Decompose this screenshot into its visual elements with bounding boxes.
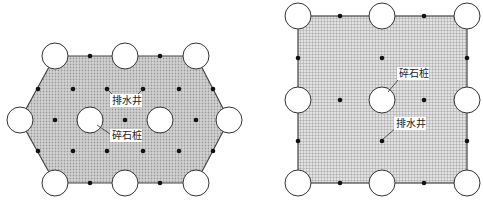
hexagonal-layout-figure: 排水井 碎石桩 xyxy=(7,43,242,196)
label-drain-well: 排水井 xyxy=(396,117,426,129)
label-drain-well: 排水井 xyxy=(112,94,142,106)
square-layout-figure: 碎石桩 排水井 xyxy=(285,3,480,196)
label-gravel-pile: 碎石桩 xyxy=(112,129,142,141)
label-gravel-pile: 碎石桩 xyxy=(399,67,429,79)
diagram-canvas: 排水井 碎石桩 碎石桩 排水井 xyxy=(0,0,483,210)
